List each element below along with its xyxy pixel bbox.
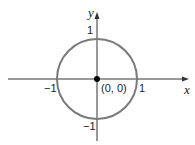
x-tick-neg: −1 — [44, 82, 57, 94]
y-axis-label: y — [86, 5, 94, 20]
x-axis-arrowhead-icon — [182, 77, 189, 82]
y-tick-pos: 1 — [87, 24, 93, 36]
origin-label: (0, 0) — [101, 82, 127, 94]
unit-circle-diagram: y x 1 −1 −1 1 (0, 0) — [0, 0, 195, 145]
origin-point — [94, 76, 100, 82]
x-axis-label: x — [183, 82, 190, 97]
x-tick-pos: 1 — [139, 82, 145, 94]
y-tick-neg: −1 — [83, 120, 96, 132]
y-axis-arrowhead-icon — [95, 12, 100, 19]
graph-canvas: y x 1 −1 −1 1 (0, 0) — [0, 0, 195, 145]
